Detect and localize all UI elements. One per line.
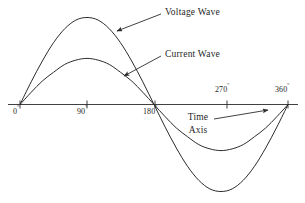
tick-label-360deg-value: 360	[275, 85, 287, 94]
degree-symbol-icon: º	[227, 82, 229, 89]
tick-label-270deg-value: 270	[215, 85, 227, 94]
tick-label-360deg: 360º	[275, 86, 289, 94]
time-axis-label-line2: Axis	[182, 126, 214, 136]
current-wave-label: Current Wave	[165, 50, 220, 60]
waveform-canvas	[0, 0, 305, 203]
tick-label-90deg-value: 90	[77, 107, 85, 116]
tick-label-180deg-value: 180	[143, 107, 155, 116]
tick-label-180deg: 180º	[143, 108, 157, 116]
degree-symbol-icon: º	[155, 104, 157, 111]
time-axis-label-line1: Time	[182, 113, 214, 123]
tick-label-90deg: 90º	[77, 108, 87, 116]
voltage-wave-label: Voltage Wave	[165, 8, 220, 18]
waveform-figure: 0º 90º 180º 270º 360º Voltage Wave Curre…	[0, 0, 305, 203]
tick-label-270deg: 270º	[215, 86, 229, 94]
degree-symbol-icon: º	[85, 104, 87, 111]
voltage-callout-arrow	[117, 14, 161, 31]
tick-label-0deg: 0º	[13, 108, 19, 116]
degree-symbol-icon: º	[287, 82, 289, 89]
time-axis-callout-arrow	[214, 110, 268, 119]
current-callout-arrow	[124, 56, 161, 76]
degree-symbol-icon: º	[17, 104, 19, 111]
